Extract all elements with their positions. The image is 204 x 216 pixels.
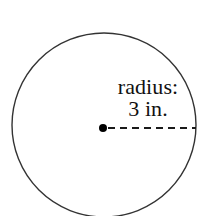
- center-point-dot: [99, 124, 107, 132]
- geometry-figure: radius: 3 in.: [0, 0, 204, 216]
- circle-diagram-svg: [0, 0, 204, 216]
